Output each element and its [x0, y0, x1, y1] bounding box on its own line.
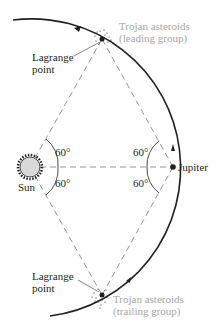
label-lagrange-top: Lagrange point	[32, 51, 74, 75]
label-trojan-trailing: Trojan asteroids (trailing group)	[113, 293, 184, 317]
sun-icon	[18, 155, 42, 179]
orbit-arrow-mid	[171, 144, 175, 151]
label-jupiter: Jupiter	[178, 161, 208, 173]
label-trojan-leading: Trojan asteroids (leading group)	[119, 20, 190, 44]
label-sun: Sun	[18, 181, 35, 193]
trojan-leading-cluster	[94, 29, 111, 44]
jupiter-dot	[170, 164, 176, 170]
angle-sun-lower: 60°	[55, 177, 70, 189]
label-lagrange-bottom: Lagrange point	[32, 270, 74, 294]
angle-jupiter-upper: 60°	[133, 146, 148, 158]
angle-sun-upper: 60°	[55, 146, 70, 158]
angle-jupiter-lower: 60°	[133, 177, 148, 189]
